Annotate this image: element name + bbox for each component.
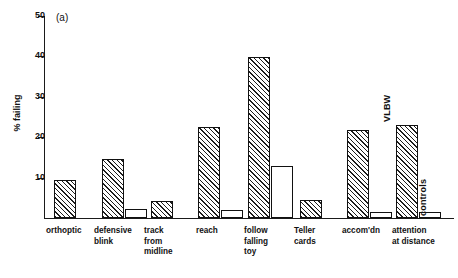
y-axis-tick-label: 50 (23, 10, 45, 20)
y-axis-tick: 30 (0, 97, 45, 98)
x-axis-category-labels: orthopticdefensive blinktrack from midli… (44, 226, 456, 278)
bar-controls (221, 210, 243, 218)
bar-vlbw (396, 125, 418, 218)
series-label-vlbw: VLBW (382, 95, 392, 122)
category-label: track from midline (144, 226, 173, 258)
bar-vlbw (102, 159, 124, 218)
bar-vlbw (347, 130, 369, 218)
bar-vlbw (300, 200, 322, 218)
category-label: defensive blink (94, 226, 132, 247)
bar-vlbw (54, 180, 76, 218)
y-axis-tick: 20 (0, 137, 45, 138)
y-axis-tick: 40 (0, 56, 45, 57)
category-label: attention at distance (392, 226, 435, 247)
chart-figure: % failing 1020304050 (a) VLBW controls o… (0, 0, 458, 278)
bar-controls (271, 166, 293, 218)
y-axis-tick-label: 40 (23, 50, 45, 60)
series-label-controls: controls (418, 179, 428, 216)
category-label: Teller cards (294, 226, 316, 247)
bar-controls (125, 209, 147, 218)
bar-controls (370, 212, 392, 218)
y-axis-tick-label: 30 (23, 91, 45, 101)
y-axis-tick: 10 (0, 178, 45, 179)
bar-vlbw (198, 127, 220, 218)
y-axis-tick-label: 20 (23, 131, 45, 141)
category-label: reach (196, 226, 218, 237)
category-label: follow falling toy (244, 226, 268, 258)
category-label: orthoptic (46, 226, 81, 237)
y-axis-tick-label: 10 (23, 172, 45, 182)
bar-vlbw (248, 57, 270, 218)
y-axis-tick: 50 (0, 16, 45, 17)
plot-area (44, 16, 454, 218)
x-axis-line (44, 218, 454, 219)
category-label: accom'dn (342, 226, 380, 237)
bar-vlbw (151, 201, 173, 218)
